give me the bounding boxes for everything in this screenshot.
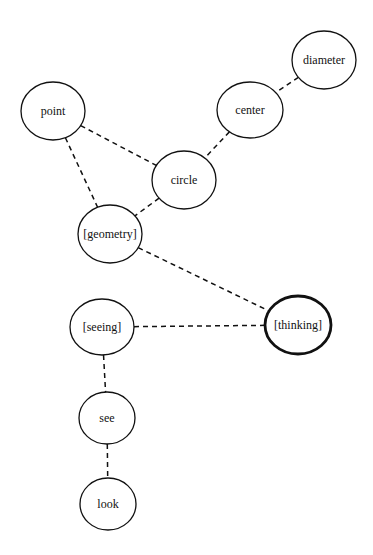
node-label: diameter (303, 53, 345, 67)
node-label: look (97, 497, 118, 511)
node-label: see (99, 411, 114, 425)
edge-diameter-center (276, 77, 299, 92)
edge-seeing-thinking (134, 325, 265, 326)
node-center: center (217, 82, 283, 138)
node-label: [seeing] (83, 320, 122, 334)
node-circle: circle (152, 151, 216, 209)
edge-point-circle (81, 126, 157, 166)
node-label: center (235, 103, 264, 117)
edge-seeing-see (104, 355, 106, 392)
node-geometry: [geometry] (78, 205, 142, 263)
node-seeing: [seeing] (70, 299, 134, 355)
node-point: point (21, 82, 85, 140)
concept-diagram: diametercenterpointcircle[geometry][thin… (0, 0, 373, 555)
node-label: [thinking] (274, 318, 322, 332)
nodes-layer: diametercenterpointcircle[geometry][thin… (21, 31, 356, 530)
node-label: [geometry] (83, 227, 136, 241)
node-label: circle (171, 173, 198, 187)
node-see: see (79, 392, 135, 444)
node-thinking: [thinking] (265, 296, 331, 354)
edge-geometry-thinking (138, 248, 269, 311)
node-diameter: diameter (292, 31, 356, 89)
edge-point-geometry (65, 138, 97, 208)
node-look: look (80, 478, 136, 530)
edge-center-circle (205, 132, 230, 158)
node-label: point (41, 104, 66, 118)
edge-circle-geometry (135, 198, 159, 216)
